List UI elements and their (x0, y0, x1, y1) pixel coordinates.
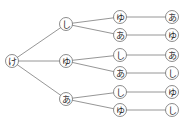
node-label: し (62, 20, 71, 30)
tree-node: ゆ (166, 29, 179, 42)
tree-edge (66, 17, 120, 24)
tree-node: し (166, 67, 179, 80)
node-label: ゆ (168, 31, 177, 41)
node-label: あ (116, 69, 125, 79)
node-label: し (168, 106, 177, 116)
tree-node: ゆ (114, 104, 127, 117)
tree-node: し (60, 18, 73, 31)
node-label: あ (116, 31, 125, 41)
tree-edge (12, 24, 66, 61)
node-label: あ (62, 95, 71, 105)
tree-nodes: けしゆあゆあしあしゆあゆあしゆし (6, 11, 179, 117)
tree-node: あ (114, 29, 127, 42)
node-label: あ (168, 51, 177, 61)
node-label: け (8, 57, 17, 67)
tree-diagram: けしゆあゆあしあしゆあゆあしゆし (0, 0, 187, 122)
tree-node: ゆ (166, 86, 179, 99)
tree-edge (12, 61, 66, 99)
tree-edge (66, 99, 120, 110)
node-label: し (168, 69, 177, 79)
node-label: し (116, 88, 125, 98)
tree-root-node: け (6, 55, 19, 68)
node-label: し (116, 51, 125, 61)
node-label: ゆ (62, 57, 71, 67)
node-label: ゆ (116, 13, 125, 23)
tree-edge (66, 24, 120, 35)
node-label: ゆ (116, 106, 125, 116)
tree-node: ゆ (114, 11, 127, 24)
tree-node: あ (166, 11, 179, 24)
tree-node: し (166, 104, 179, 117)
tree-edge (66, 92, 120, 99)
node-label: ゆ (168, 88, 177, 98)
tree-edge (66, 55, 120, 61)
tree-node: あ (114, 67, 127, 80)
tree-node: あ (60, 93, 73, 106)
tree-node: し (114, 49, 127, 62)
tree-edges (12, 17, 172, 110)
tree-node: し (114, 86, 127, 99)
tree-node: あ (166, 49, 179, 62)
node-label: あ (168, 13, 177, 23)
tree-edge (66, 61, 120, 73)
tree-node: ゆ (60, 55, 73, 68)
